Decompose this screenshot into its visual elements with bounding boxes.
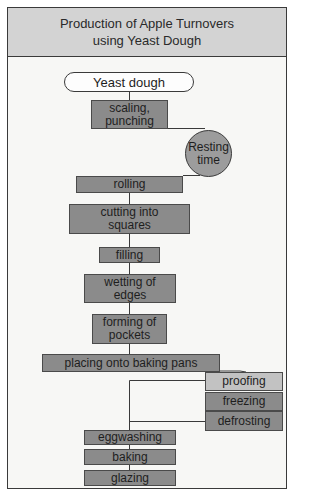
node-label: punching xyxy=(105,115,154,128)
node-label: Resting xyxy=(188,141,229,154)
node-label: Yeast dough xyxy=(93,75,165,90)
node-scaling-punching: scaling, punching xyxy=(91,100,168,129)
node-label: freezing xyxy=(223,395,266,408)
node-label: glazing xyxy=(111,472,149,485)
node-label: eggwashing xyxy=(98,431,162,444)
node-cutting-into-squares: cutting into squares xyxy=(69,204,190,234)
node-label: placing onto baking pans xyxy=(65,357,198,370)
node-label: rolling xyxy=(113,178,145,191)
node-label: pockets xyxy=(103,329,156,342)
node-label: defrosting xyxy=(218,415,271,428)
node-label: wetting of xyxy=(104,276,155,289)
node-label: scaling, xyxy=(105,102,154,115)
node-glazing: glazing xyxy=(84,470,176,486)
node-rolling: rolling xyxy=(76,176,183,193)
node-label: edges xyxy=(104,289,155,302)
node-label: proofing xyxy=(222,375,265,388)
node-forming-of-pockets: forming of pockets xyxy=(92,314,167,344)
node-baking: baking xyxy=(84,449,176,465)
node-wetting-of-edges: wetting of edges xyxy=(84,274,176,303)
node-eggwashing: eggwashing xyxy=(84,430,176,445)
node-label: baking xyxy=(112,451,147,464)
node-freezing: freezing xyxy=(205,392,283,411)
node-resting-time: Resting time xyxy=(185,130,232,177)
node-label: squares xyxy=(100,219,158,232)
node-label: time xyxy=(197,154,220,167)
node-defrosting: defrosting xyxy=(205,411,283,431)
node-placing-onto-baking-pans: placing onto baking pans xyxy=(42,354,220,372)
node-yeast-dough: Yeast dough xyxy=(64,72,194,92)
node-proofing: proofing xyxy=(205,372,283,391)
node-label: filling xyxy=(116,249,143,262)
node-filling: filling xyxy=(99,247,160,263)
